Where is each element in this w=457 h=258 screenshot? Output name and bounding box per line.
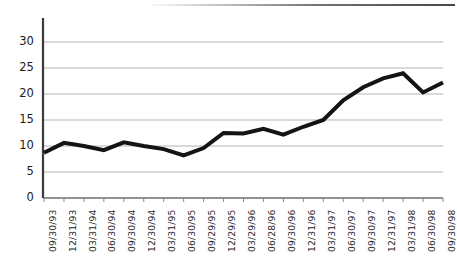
x-axis-tick-label: 12/31/93 [68,210,77,252]
y-axis-tick-label: 0 [8,192,34,204]
x-axis-tick-label: 09/29/95 [207,210,216,252]
x-axis-tick-label: 03/31/95 [167,210,176,252]
x-axis-tick-label: 12/31/96 [307,210,316,252]
x-axis-tick-label: 06/30/95 [187,210,196,252]
x-axis-tick-label: 12/29/95 [227,210,236,252]
x-axis-tick-label: 09/30/94 [127,210,136,252]
y-axis-tick-label: 10 [8,140,34,152]
y-axis-tick-label: 25 [8,62,34,74]
x-axis-tick-label: 09/30/98 [447,210,456,252]
x-axis-tick-label: 12/30/94 [147,210,156,252]
data-series-line [44,73,443,155]
x-axis-tick-label: 06/30/94 [107,210,116,252]
x-tick-marks-group [44,198,443,202]
x-axis-tick-label: 03/31/98 [407,210,416,252]
x-axis-tick-label: 03/31/94 [88,210,97,252]
x-axis-tick-label: 03/31/97 [327,210,336,252]
x-axis-tick-label: 06/28/96 [267,210,276,252]
x-axis-tick-label: 06/30/98 [427,210,436,252]
x-axis-tick-label: 09/30/96 [287,210,296,252]
gridlines-group [43,42,443,198]
y-axis-tick-label: 15 [8,114,34,126]
x-axis-tick-label: 03/29/96 [247,210,256,252]
y-axis-tick-label: 30 [8,36,34,48]
y-axis-tick-label: 5 [8,166,34,178]
x-axis-tick-label: 06/30/97 [347,210,356,252]
x-axis-tick-label: 12/31/97 [387,210,396,252]
y-axis-tick-label: 20 [8,88,34,100]
x-axis-tick-label: 09/30/97 [367,210,376,252]
x-axis-tick-label: 09/30/93 [48,210,57,252]
